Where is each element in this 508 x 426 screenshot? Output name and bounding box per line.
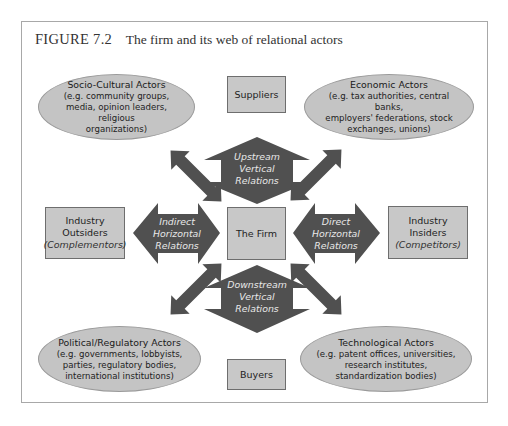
upstream-relations-label: Upstream Vertical Relations bbox=[212, 147, 302, 191]
economic-actors-ellipse: Economic Actors (e.g. tax authorities, c… bbox=[304, 74, 474, 140]
the-firm-box: The Firm bbox=[227, 207, 286, 260]
indirect-horizontal-relations-label: Indirect Horizontal Relations bbox=[143, 212, 211, 256]
downstream-relations-label: Downstream Vertical Relations bbox=[207, 275, 307, 319]
technological-actors-ellipse: Technological Actors (e.g. patent office… bbox=[300, 326, 472, 392]
suppliers-box: Suppliers bbox=[227, 76, 286, 113]
political-regulatory-actors-ellipse: Political/Regulatory Actors (e.g. govern… bbox=[38, 326, 201, 392]
socio-cultural-actors-ellipse: Socio-Cultural Actors (e.g. community gr… bbox=[38, 74, 195, 140]
direct-horizontal-relations-label: Direct Horizontal Relations bbox=[302, 212, 370, 256]
industry-insiders-box: Industry Insiders (Competitors) bbox=[388, 206, 468, 259]
industry-outsiders-box: Industry Outsiders (Complementors) bbox=[45, 207, 125, 259]
buyers-box: Buyers bbox=[227, 359, 286, 390]
